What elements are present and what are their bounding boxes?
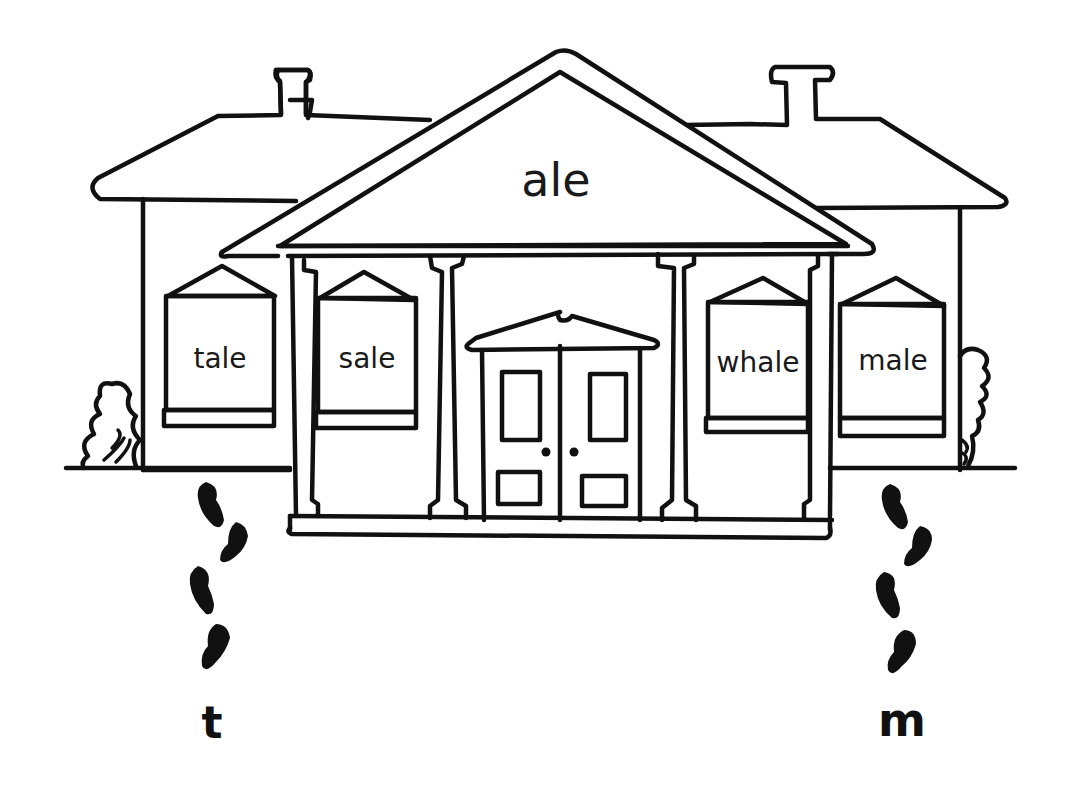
footprint-icon — [202, 624, 230, 669]
footprint-icon — [220, 522, 248, 562]
porch-column-far-left — [292, 256, 318, 516]
bush-right — [960, 349, 989, 466]
footprint-trail-right — [876, 484, 932, 673]
window-label-male: male — [858, 344, 927, 377]
door-knob-left — [542, 448, 551, 457]
trail-letter-m: m — [878, 693, 926, 747]
footprint-icon — [904, 526, 932, 566]
gable-word-family: ale — [521, 153, 590, 207]
window-label-tale: tale — [193, 342, 246, 375]
front-door-pediment — [467, 312, 658, 350]
footprint-icon — [888, 630, 916, 673]
window-label-sale: sale — [339, 342, 396, 375]
footprint-icon — [198, 482, 224, 527]
porch-column-inner-right — [658, 254, 696, 520]
footprint-icon — [876, 572, 900, 618]
ale-word-family-house-illustration: ale tale sale whale — [0, 0, 1079, 788]
trail-letter-t: t — [201, 697, 222, 748]
window-label-whale: whale — [717, 346, 800, 379]
door-knob-right — [570, 448, 579, 457]
footprint-icon — [190, 566, 214, 614]
footprint-trail-left — [190, 482, 248, 669]
left-chimney — [277, 70, 310, 114]
front-double-door — [482, 346, 640, 520]
right-wing-roof — [685, 67, 1006, 470]
bush-left — [83, 383, 140, 468]
footprint-icon — [882, 484, 908, 529]
porch-column-inner-left — [430, 256, 466, 518]
